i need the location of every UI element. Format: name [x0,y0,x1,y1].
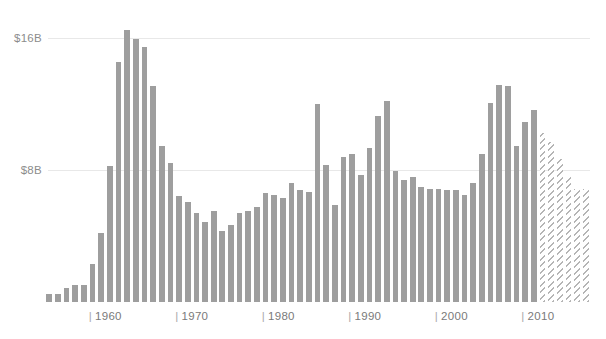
bar [393,171,399,302]
bar [522,122,528,302]
bar [254,207,260,302]
bar [349,154,355,302]
bar-chart: $16B $8B |1960|1970|1980|1990|2000|2010 [0,0,606,339]
bar [150,86,156,302]
bar [289,183,295,302]
bar [81,285,87,302]
bar [228,225,234,302]
bar-projected [548,142,554,302]
bar [280,198,286,302]
xtick-label-2000: |2000 [435,310,468,322]
tick-mark-icon: | [262,310,265,322]
tick-mark-icon: | [348,310,351,322]
xtick-label-1990: |1990 [348,310,381,322]
bar [116,62,122,302]
bar [306,192,312,302]
bar [418,187,424,302]
tick-mark-icon: | [521,310,524,322]
bar [72,285,78,302]
bar [168,163,174,302]
bar [133,39,139,302]
bar [358,175,364,302]
bar [436,189,442,302]
bar [64,288,70,302]
bar [531,110,537,302]
bar [176,196,182,302]
xtick-label-1970: |1970 [175,310,208,322]
bar [194,213,200,302]
bar [98,233,104,302]
bar [323,165,329,302]
bar [142,47,148,302]
bar [427,189,433,302]
bar [453,190,459,302]
bar-projected [540,133,546,302]
bar [263,193,269,302]
bar [107,166,113,302]
bar-projected [557,159,563,302]
bar [332,205,338,302]
tick-mark-icon: | [89,310,92,322]
bar [375,116,381,302]
bar [124,30,130,302]
bar [514,146,520,302]
bar [159,146,165,302]
tick-mark-icon: | [175,310,178,322]
bar [315,104,321,302]
bar [488,103,494,302]
bar [211,211,217,302]
bar [46,294,52,302]
xtick-label-2010: |2010 [521,310,554,322]
bar [202,222,208,302]
ytick-label-8b: $8B [0,164,42,176]
xtick-text: 1990 [355,310,382,322]
axis-baseline [45,302,590,303]
bar [505,86,511,302]
bar [410,177,416,302]
bar-projected [583,189,589,302]
bar [185,202,191,302]
bar [470,183,476,302]
bar [297,190,303,302]
bar [479,154,485,302]
plot-area [45,0,590,302]
bar [384,101,390,302]
bar [55,294,61,302]
tick-mark-icon: | [435,310,438,322]
xtick-text: 2000 [441,310,468,322]
bar [219,231,225,302]
xtick-label-1960: |1960 [89,310,122,322]
ytick-label-16b: $16B [0,32,42,44]
bar [367,148,373,302]
bar [462,195,468,302]
bar-projected [574,189,580,302]
bar [271,195,277,302]
bar-projected [566,177,572,302]
xtick-label-1980: |1980 [262,310,295,322]
bar [237,213,243,302]
bar [90,264,96,302]
bar [444,190,450,302]
bar [401,180,407,302]
xtick-text: 1960 [95,310,122,322]
bar [496,85,502,302]
xtick-text: 1980 [268,310,295,322]
bar [341,157,347,302]
xtick-text: 2010 [528,310,555,322]
xtick-text: 1970 [182,310,209,322]
bar [245,211,251,302]
